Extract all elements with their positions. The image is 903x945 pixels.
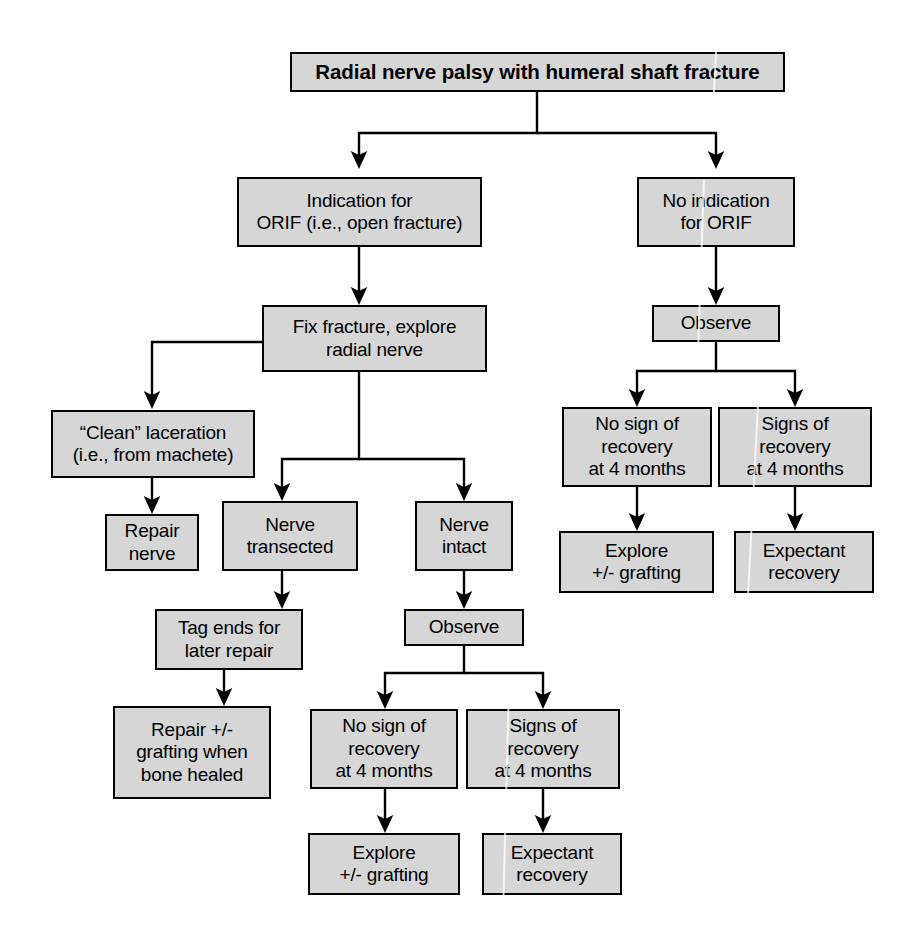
edge-observe-right-to-no-recovery (637, 342, 716, 398)
edge-observe-mid-to-no-recovery (385, 646, 464, 700)
node-tag-ends-for-later-repair: Tag ends for later repair (155, 609, 303, 670)
node-right-explore-grafting: Explore +/- grafting (559, 531, 714, 593)
edge-fix-explore-to-clean-laceration (152, 342, 262, 400)
node-nerve-intact: Nerve intact (415, 501, 513, 571)
node-mid-no-sign-of-recovery: No sign of recovery at 4 months (310, 709, 458, 789)
node-indication-for-orif: Indication for ORIF (i.e., open fracture… (237, 177, 482, 247)
node-clean-laceration: “Clean” laceration (i.e., from machete) (51, 410, 255, 478)
node-fix-fracture-explore-radial-nerve: Fix fracture, explore radial nerve (262, 305, 487, 372)
node-right-expectant-recovery: Expectant recovery (734, 531, 874, 593)
node-observe-right: Observe (652, 305, 780, 342)
edge-root-to-orif-yes (359, 92, 537, 160)
edge-root-to-orif-no (537, 133, 716, 160)
edge-observe-right-to-signs-recovery (716, 371, 795, 398)
node-nerve-transected: Nerve transected (222, 501, 358, 571)
node-repair-nerve: Repair nerve (105, 514, 199, 571)
node-right-signs-of-recovery: Signs of recovery at 4 months (718, 407, 872, 487)
node-mid-explore-grafting: Explore +/- grafting (308, 833, 460, 895)
node-no-indication-for-orif: No indication for ORIF (637, 177, 795, 247)
flowchart-canvas: Radial nerve palsy with humeral shaft fr… (0, 0, 903, 945)
node-mid-signs-of-recovery: Signs of recovery at 4 months (466, 709, 620, 789)
node-repair-grafting-when-bone-healed: Repair +/- grafting when bone healed (113, 706, 271, 799)
node-observe-mid: Observe (404, 609, 524, 646)
edge-fix-explore-to-nerve-intact (359, 459, 464, 492)
node-root: Radial nerve palsy with humeral shaft fr… (290, 52, 785, 92)
edge-fix-explore-to-nerve-transected (282, 372, 359, 492)
node-right-no-sign-of-recovery: No sign of recovery at 4 months (562, 407, 712, 487)
edge-observe-mid-to-signs-recovery (464, 673, 543, 700)
node-mid-expectant-recovery: Expectant recovery (482, 833, 622, 895)
